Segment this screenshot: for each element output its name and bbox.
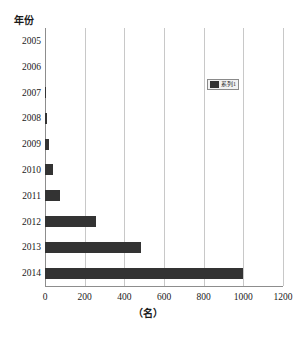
x-tick-label: 1000 [223,292,263,303]
bar [45,164,53,175]
chart-legend[interactable]: 系列1 [207,79,239,90]
x-axis-title: （名） [0,308,295,320]
y-axis-title: 年份 [14,15,34,27]
bar [45,216,96,227]
y-tick-label: 2008 [11,113,41,123]
bar [45,87,46,98]
legend-entry-label: 系列1 [221,81,236,88]
bar [45,113,47,124]
x-tick-label: 200 [65,292,105,303]
gridline [164,28,165,286]
gridline [204,28,205,286]
gridline [283,28,284,286]
bar-chart: 年份 2005200620072008200920102011201220132… [0,0,295,341]
y-tick-label: 2013 [11,242,41,252]
y-tick-label: 2014 [11,268,41,278]
bar [45,190,60,201]
y-tick-label: 2012 [11,217,41,227]
x-tick-label: 800 [184,292,224,303]
bar [45,242,141,253]
gridline [243,28,244,286]
x-tick-label: 0 [25,292,65,303]
y-tick-label: 2009 [11,139,41,149]
y-tick-label: 2007 [11,88,41,98]
bar [45,268,243,279]
legend-swatch-icon [210,81,219,88]
y-tick-label: 2011 [11,191,41,201]
bar [45,139,49,150]
x-axis-line [45,286,283,287]
y-tick-label: 2010 [11,165,41,175]
y-tick-label: 2005 [11,36,41,46]
x-tick-label: 1200 [263,292,295,303]
x-tick-label: 400 [104,292,144,303]
y-tick-label: 2006 [11,62,41,72]
x-tick-label: 600 [144,292,184,303]
